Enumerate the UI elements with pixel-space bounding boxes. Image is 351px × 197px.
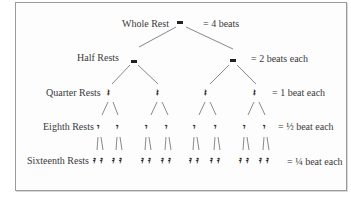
- sixteenth-rest-icon: 𝄿: [266, 156, 269, 165]
- sixteenth-rest-icon: 𝄿: [189, 156, 192, 165]
- whole-rest-icon: [177, 21, 183, 24]
- sixteenth-rest-icon: 𝄿: [141, 156, 144, 165]
- quarter-rest-icon: 𝄽: [156, 89, 159, 98]
- value-eighth-rests: = ½ beat each: [278, 122, 334, 132]
- eighth-rest-icon: 𝄾: [193, 123, 195, 132]
- label-whole-rest: Whole Rest: [122, 19, 169, 29]
- label-sixteenth-rests: Sixteenth Rests: [27, 156, 89, 166]
- sixteenth-rest-icon: 𝄿: [168, 156, 171, 165]
- sixteenth-rest-icon: 𝄿: [239, 156, 242, 165]
- sixteenth-rest-icon: 𝄿: [148, 156, 151, 165]
- half-rest-icon: [230, 59, 236, 62]
- quarter-rest-icon: 𝄽: [204, 89, 207, 98]
- eighth-rest-icon: 𝄾: [145, 123, 147, 132]
- sixteenth-rest-icon: 𝄿: [259, 156, 262, 165]
- sixteenth-rest-icon: 𝄿: [161, 156, 164, 165]
- quarter-rest-icon: 𝄽: [253, 89, 256, 98]
- sixteenth-rest-icon: 𝄿: [196, 156, 199, 165]
- eighth-rest-icon: 𝄾: [243, 123, 245, 132]
- rest-tree-connectors: [0, 0, 351, 197]
- label-quarter-rests: Quarter Rests: [46, 88, 101, 98]
- sixteenth-rest-icon: 𝄿: [93, 156, 96, 165]
- sixteenth-rest-icon: 𝄿: [246, 156, 249, 165]
- half-rest-icon: [131, 60, 137, 63]
- eighth-rest-icon: 𝄾: [97, 123, 99, 132]
- sixteenth-rest-icon: 𝄿: [217, 156, 220, 165]
- eighth-rest-icon: 𝄾: [165, 123, 167, 132]
- sixteenth-rest-icon: 𝄿: [210, 156, 213, 165]
- eighth-rest-icon: 𝄾: [263, 123, 265, 132]
- value-quarter-rests: = 1 beat each: [272, 88, 325, 98]
- sixteenth-rest-icon: 𝄿: [112, 156, 115, 165]
- value-sixteenth-rests: = ¼ beat each: [287, 157, 343, 167]
- eighth-rest-icon: 𝄾: [116, 123, 118, 132]
- quarter-rest-icon: 𝄽: [107, 89, 110, 98]
- eighth-rest-icon: 𝄾: [214, 123, 216, 132]
- label-half-rests: Half Rests: [77, 53, 119, 63]
- value-whole-rest: = 4 beats: [203, 19, 239, 29]
- sixteenth-rest-icon: 𝄿: [100, 156, 103, 165]
- value-half-rests: = 2 beats each: [251, 54, 308, 64]
- label-eighth-rests: Eighth Rests: [43, 122, 94, 132]
- sixteenth-rest-icon: 𝄿: [119, 156, 122, 165]
